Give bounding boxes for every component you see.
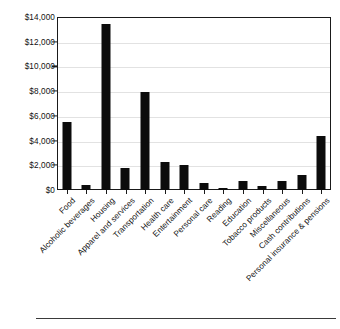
expenditure-bar-chart: $14,000$12,000$10,000$8,000$6,000$4,000$… [0,0,340,329]
bar-slot [116,17,136,190]
bar-slot [57,17,77,190]
bar[interactable] [141,92,150,190]
bar-slot [155,17,175,190]
x-axis-tick-mark [106,190,107,194]
y-axis-tick-label: $4,000 [1,136,55,145]
bar[interactable] [317,136,326,190]
bar[interactable] [62,122,71,190]
x-axis-tick-mark [282,190,283,194]
y-axis-tick-label: $8,000 [1,87,55,96]
y-axis-tick-label: $12,000 [1,37,55,46]
bar-slot [311,17,331,190]
x-axis-tick-mark [67,190,68,194]
bar-slot [174,17,194,190]
x-axis-tick-mark [145,190,146,194]
bars-container [57,17,331,190]
x-axis-tick-mark [243,190,244,194]
y-axis-tick-label: $2,000 [1,161,55,170]
bar-slot [292,17,312,190]
footer-divider [36,318,336,319]
bar[interactable] [199,183,208,190]
bar-slot [135,17,155,190]
bar[interactable] [121,168,130,190]
x-axis-tick-mark [126,190,127,194]
bar[interactable] [101,24,110,190]
bar[interactable] [180,165,189,190]
y-axis-tick-label: $0 [1,186,55,195]
bar[interactable] [297,175,306,190]
bar[interactable] [278,181,287,190]
y-axis-tick-label: $6,000 [1,111,55,120]
bar-slot [253,17,273,190]
x-axis-tick-mark [184,190,185,194]
x-axis-tick-mark [223,190,224,194]
bar-slot [194,17,214,190]
x-axis-tick-mark [302,190,303,194]
y-axis-tick-label: $14,000 [1,13,55,22]
x-axis-tick-mark [204,190,205,194]
bar[interactable] [160,162,169,190]
x-axis-tick-mark [321,190,322,194]
bar[interactable] [238,181,247,190]
bar-slot [96,17,116,190]
x-axis-tick-mark [86,190,87,194]
bar-slot [272,17,292,190]
x-axis-tick-mark [263,190,264,194]
y-axis-tick-label: $10,000 [1,62,55,71]
x-axis-tick-mark [165,190,166,194]
bar-slot [77,17,97,190]
bar-slot [233,17,253,190]
y-axis: $14,000$12,000$10,000$8,000$6,000$4,000$… [0,0,55,329]
bar-slot [214,17,234,190]
